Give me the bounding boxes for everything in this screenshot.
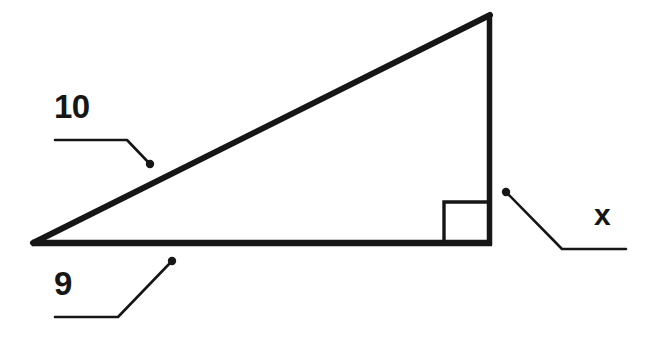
leader-path-10 (55, 140, 149, 163)
triangle-hypotenuse-line (33, 15, 490, 243)
leader-dot-10-icon (146, 160, 154, 168)
leader-dot-x-icon (502, 188, 510, 196)
geometry-diagram-canvas: 10 9 x (0, 0, 653, 338)
leader-line-hypotenuse (55, 140, 154, 168)
triangle-shape (32, 14, 492, 245)
leader-line-base (55, 257, 176, 317)
leader-dot-9-icon (168, 257, 176, 265)
triangle-figure (0, 0, 653, 338)
leader-path-9 (55, 262, 171, 317)
hypotenuse-label: 10 (54, 90, 90, 123)
right-angle-icon (444, 202, 488, 244)
base-label: 9 (54, 267, 72, 300)
vertical-leg-label: x (594, 200, 611, 230)
